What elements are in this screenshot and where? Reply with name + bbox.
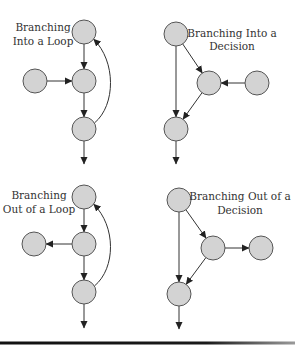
panel-title-line-1: Branching <box>15 21 71 33</box>
flow-node-a <box>167 188 191 212</box>
panel-title-line-1: Branching Out of a <box>189 190 290 202</box>
flow-arrow <box>183 44 203 73</box>
panel-title-line-2: Out of a Loop <box>3 203 76 215</box>
panel-branching-into-a-loop: Branching Into a Loop <box>13 20 111 164</box>
control-flow-diagram: Branching Into a Loop Branching Into a D… <box>0 0 295 346</box>
panel-title-line-1: Branching Into a <box>187 27 277 39</box>
flow-arrow <box>186 210 206 238</box>
flow-node-d <box>167 282 191 306</box>
flow-node-b <box>23 69 47 93</box>
flow-node-d <box>164 117 188 141</box>
flow-node-c <box>245 71 269 95</box>
flow-node-d <box>72 280 96 304</box>
flow-node-a <box>72 185 96 209</box>
flow-node-c <box>72 69 96 93</box>
flow-node-a <box>164 22 188 46</box>
panel-branching-out-of-a-loop: Branching Out of a Loop <box>3 185 111 328</box>
panel-branching-into-a-decision: Branching Into a Decision <box>164 22 277 164</box>
flow-node-b <box>22 232 46 256</box>
panel-branching-out-of-a-decision: Branching Out of a Decision <box>167 188 291 329</box>
bottom-rule-divider <box>0 342 295 345</box>
panel-title-line-1: Branching <box>11 189 67 201</box>
flow-node-c <box>249 236 273 260</box>
panel-title-line-2: Decision <box>209 40 255 52</box>
flow-node-d <box>72 117 96 141</box>
flow-arrow <box>186 258 206 285</box>
flow-arrow <box>183 93 202 119</box>
flow-node-b <box>197 71 221 95</box>
panel-title-line-2: Into a Loop <box>13 35 74 47</box>
panel-title-line-2: Decision <box>217 204 263 216</box>
flow-node-a <box>72 20 96 44</box>
flow-node-c <box>72 232 96 256</box>
flow-node-b <box>201 236 225 260</box>
